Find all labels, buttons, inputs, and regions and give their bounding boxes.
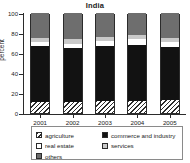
y-axis-tick-label: 60 bbox=[0, 51, 18, 57]
legend-column-left: agriculturereal estateothers bbox=[36, 130, 100, 162]
bar-segment-realestate bbox=[31, 42, 49, 46]
bar-segment-services bbox=[96, 37, 114, 41]
bar-segment-commerce bbox=[161, 47, 179, 100]
legend-swatch-services-icon bbox=[102, 143, 108, 149]
legend-column-right: commerce and industryservices bbox=[102, 130, 182, 151]
legend-swatch-others-icon bbox=[36, 153, 42, 159]
bar-segment-agriculture bbox=[128, 101, 146, 113]
bar-segment-realestate bbox=[161, 42, 179, 47]
bar-segment-commerce bbox=[128, 45, 146, 101]
chart-container: India percent 020406080100 2001200220032… bbox=[0, 0, 190, 163]
bar-segment-others bbox=[96, 13, 114, 37]
bar-segment-agriculture bbox=[96, 101, 114, 113]
bar-segment-services bbox=[161, 38, 179, 42]
bar-segment-agriculture bbox=[64, 102, 82, 113]
bar-segment-realestate bbox=[64, 44, 82, 48]
bar-segment-commerce bbox=[64, 48, 82, 102]
bar-2001 bbox=[30, 14, 50, 114]
x-axis-tick bbox=[40, 114, 41, 118]
legend-item-commerce[interactable]: commerce and industry bbox=[102, 130, 182, 140]
legend-item-services[interactable]: services bbox=[102, 141, 182, 151]
plot-area bbox=[24, 14, 186, 114]
x-axis-tick bbox=[170, 114, 171, 118]
legend-label: commerce and industry bbox=[111, 132, 175, 139]
bar-segment-commerce bbox=[96, 46, 114, 101]
bar-segment-agriculture bbox=[31, 102, 49, 113]
y-axis-tick-label: 20 bbox=[0, 91, 18, 97]
legend-item-realestate[interactable]: real estate bbox=[36, 141, 100, 151]
legend-swatch-agriculture-icon bbox=[36, 132, 42, 138]
x-axis-tick-label: 2003 bbox=[89, 119, 121, 126]
bar-segment-others bbox=[64, 13, 82, 39]
y-axis-tick bbox=[19, 34, 23, 35]
y-axis-tick-label: 40 bbox=[0, 71, 18, 77]
legend-label: agriculture bbox=[45, 132, 74, 139]
legend-item-others[interactable]: others bbox=[36, 151, 100, 161]
bar-2002 bbox=[63, 14, 83, 114]
x-axis-tick-label: 2004 bbox=[121, 119, 153, 126]
y-axis-title: percent bbox=[0, 39, 5, 61]
x-axis-tick bbox=[105, 114, 106, 118]
chart-title: India bbox=[0, 1, 190, 10]
x-axis-tick bbox=[73, 114, 74, 118]
bar-2004 bbox=[127, 14, 147, 114]
bar-segment-commerce bbox=[31, 46, 49, 102]
bar-2003 bbox=[95, 14, 115, 114]
chart-legend: agriculturereal estateothers commerce an… bbox=[31, 126, 183, 160]
bar-segment-others bbox=[161, 13, 179, 38]
legend-item-agriculture[interactable]: agriculture bbox=[36, 130, 100, 140]
x-axis-tick-label: 2005 bbox=[154, 119, 186, 126]
legend-swatch-realestate-icon bbox=[36, 143, 42, 149]
bar-segment-realestate bbox=[128, 39, 146, 45]
y-axis-tick bbox=[19, 54, 23, 55]
x-axis-tick bbox=[137, 114, 138, 118]
legend-label: others bbox=[45, 153, 62, 160]
y-axis-tick bbox=[19, 14, 23, 15]
y-axis-tick-label: 100 bbox=[0, 11, 18, 17]
bar-segment-services bbox=[64, 39, 82, 44]
legend-swatch-commerce-icon bbox=[102, 132, 108, 138]
bar-segment-realestate bbox=[96, 41, 114, 46]
bar-segment-others bbox=[31, 13, 49, 38]
y-axis-tick-label: 0 bbox=[0, 111, 18, 117]
y-axis-tick bbox=[19, 74, 23, 75]
y-axis-tick bbox=[19, 94, 23, 95]
bar-segment-others bbox=[128, 13, 146, 35]
y-axis-tick-label: 80 bbox=[0, 31, 18, 37]
x-axis-tick-label: 2001 bbox=[24, 119, 56, 126]
bar-segment-agriculture bbox=[161, 100, 179, 113]
legend-label: real estate bbox=[45, 142, 74, 149]
x-axis-tick-label: 2002 bbox=[57, 119, 89, 126]
bar-segment-services bbox=[128, 35, 146, 39]
bar-2005 bbox=[160, 14, 180, 114]
legend-label: services bbox=[111, 142, 134, 149]
bar-segment-services bbox=[31, 38, 49, 42]
y-axis-tick bbox=[19, 114, 23, 115]
